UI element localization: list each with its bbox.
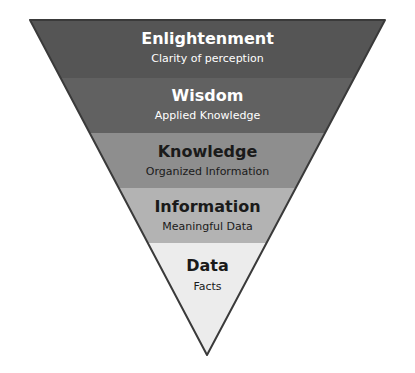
dikw-pyramid-diagram: EnlightenmentClarity of perceptionWisdom… — [0, 0, 415, 373]
band-subtitle-knowledge: Organized Information — [146, 165, 269, 178]
band-title-enlightenment: Enlightenment — [141, 29, 274, 48]
pyramid-bands-group — [0, 20, 415, 355]
band-title-wisdom: Wisdom — [172, 86, 244, 105]
band-title-knowledge: Knowledge — [158, 142, 258, 161]
band-subtitle-enlightenment: Clarity of perception — [151, 52, 263, 65]
band-subtitle-data: Facts — [193, 280, 221, 293]
pyramid-canvas: EnlightenmentClarity of perceptionWisdom… — [0, 0, 415, 373]
band-title-information: Information — [154, 197, 260, 216]
band-subtitle-information: Meaningful Data — [162, 220, 253, 233]
band-subtitle-wisdom: Applied Knowledge — [155, 109, 261, 122]
band-title-data: Data — [186, 256, 229, 275]
